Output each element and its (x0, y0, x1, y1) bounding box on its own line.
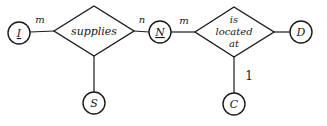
entity-label: D (296, 26, 306, 39)
cardinality-i-supplies: m (35, 14, 44, 25)
entity-d: D (290, 21, 312, 43)
entity-n: N (149, 21, 171, 43)
entity-label: I (16, 27, 22, 40)
relationship-label-line1: is (230, 14, 238, 25)
edge-i-supplies (30, 31, 54, 32)
relationship-label-line2: located (215, 26, 252, 37)
er-diagram: supplies is located at I N S D C m n m 1 (0, 0, 327, 126)
entity-s: S (83, 92, 105, 114)
relationship-label: supplies (71, 25, 117, 38)
cardinality-n-located: m (179, 15, 188, 26)
cardinality-supplies-n: n (139, 14, 145, 25)
entity-label: C (230, 98, 239, 111)
relationship-supplies: supplies (54, 6, 134, 56)
edge-supplies-n (134, 31, 149, 32)
entity-c: C (223, 93, 245, 115)
entity-label: S (90, 97, 98, 110)
cardinality-located-c: 1 (245, 69, 253, 83)
relationship-label-line3: at (229, 38, 240, 49)
entity-label: N (154, 26, 165, 39)
entity-i: I (8, 22, 30, 44)
relationship-is-located-at: is located at (195, 7, 274, 57)
